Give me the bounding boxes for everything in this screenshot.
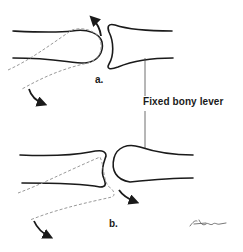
panel-b-glide-arrow [119,190,136,202]
panel-a-moving-bone [13,30,102,63]
panel-b-moving-bone [20,151,106,187]
fixed-bony-lever-label: Fixed bony lever [143,97,224,107]
artist-signature [190,220,226,226]
panel-b-rotation-arrow-bottom [34,221,50,237]
panel-b-fixed-bone [113,145,193,182]
joint-mechanics-figure: a. Fixed bony lever b. [0,0,243,252]
panel-a-label: a. [95,75,103,85]
panel-a-rotation-arrow-bottom [29,89,44,104]
panel-a [8,18,173,104]
panel-b [18,145,193,237]
panel-b-displaced-outline [18,157,114,220]
figure-drawing [0,0,243,252]
panel-a-fixed-bone [108,24,173,68]
panel-b-label: b. [109,219,118,229]
